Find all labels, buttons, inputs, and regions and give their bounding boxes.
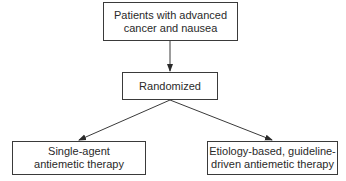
single-agent-node-line-2: antiemetic therapy (34, 158, 124, 171)
etiology-based-node-line-1: Etiology-based, guideline- (209, 145, 336, 158)
single-agent-node: Single-agent antiemetic therapy (12, 141, 146, 175)
etiology-based-node: Etiology-based, guideline- driven antiem… (207, 141, 338, 175)
patients-node: Patients with advanced cancer and nausea (103, 2, 238, 41)
arrow-randomized-to-single-agent (79, 100, 170, 140)
randomized-node-label: Randomized (139, 80, 201, 93)
patients-node-line-2: cancer and nausea (114, 22, 227, 35)
arrow-randomized-to-etiology-based (170, 100, 272, 140)
randomized-node: Randomized (122, 72, 218, 100)
patients-node-line-1: Patients with advanced (114, 9, 227, 22)
single-agent-node-line-1: Single-agent (34, 145, 124, 158)
etiology-based-node-line-2: driven antiemetic therapy (209, 158, 336, 171)
